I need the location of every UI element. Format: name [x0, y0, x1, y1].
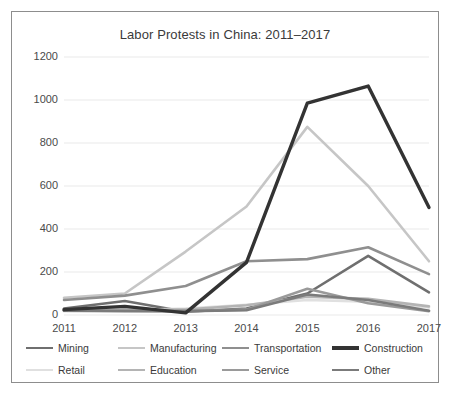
legend-swatch-other-icon	[332, 369, 359, 372]
legend-swatch-service-icon	[222, 369, 249, 372]
x-tick-label: 2012	[102, 322, 148, 334]
y-tick-label: 800	[14, 136, 58, 148]
legend-item-education[interactable]: Education	[118, 364, 197, 376]
x-tick-label: 2017	[406, 322, 452, 334]
legend-label: Transportation	[254, 342, 321, 354]
legend-item-mining[interactable]: Mining	[26, 342, 89, 354]
y-tick-label: 1200	[14, 50, 58, 62]
legend-item-construction[interactable]: Construction	[332, 342, 423, 354]
chart-legend: MiningManufacturingTransportationConstru…	[26, 342, 426, 386]
legend-item-transportation[interactable]: Transportation	[222, 342, 321, 354]
x-tick-label: 2011	[41, 322, 87, 334]
y-tick-label: 0	[14, 308, 58, 320]
x-tick-label: 2015	[284, 322, 330, 334]
series-lines	[64, 86, 429, 313]
legend-label: Retail	[58, 364, 85, 376]
legend-label: Manufacturing	[150, 342, 217, 354]
legend-swatch-construction-icon	[332, 346, 359, 349]
legend-swatch-transportation-icon	[222, 347, 249, 350]
y-tick-label: 200	[14, 265, 58, 277]
legend-item-manufacturing[interactable]: Manufacturing	[118, 342, 217, 354]
chart-frame: Labor Protests in China: 2011–2017 02004…	[11, 11, 439, 383]
y-tick-label: 400	[14, 222, 58, 234]
legend-row: MiningManufacturingTransportationConstru…	[26, 342, 426, 359]
series-line-construction	[64, 86, 429, 313]
series-line-transportation	[64, 247, 429, 300]
legend-swatch-manufacturing-icon	[118, 347, 145, 350]
legend-label: Education	[150, 364, 197, 376]
legend-swatch-mining-icon	[26, 347, 53, 350]
legend-label: Service	[254, 364, 289, 376]
legend-item-service[interactable]: Service	[222, 364, 289, 376]
legend-swatch-retail-icon	[26, 369, 53, 372]
legend-item-other[interactable]: Other	[332, 364, 390, 376]
legend-label: Mining	[58, 342, 89, 354]
legend-item-retail[interactable]: Retail	[26, 364, 85, 376]
x-tick-label: 2016	[345, 322, 391, 334]
y-tick-label: 600	[14, 179, 58, 191]
x-tick-label: 2014	[224, 322, 270, 334]
legend-label: Construction	[364, 342, 423, 354]
legend-swatch-education-icon	[118, 369, 145, 372]
legend-row: RetailEducationServiceOther	[26, 364, 426, 381]
x-tick-label: 2013	[163, 322, 209, 334]
legend-label: Other	[364, 364, 390, 376]
y-tick-label: 1000	[14, 93, 58, 105]
